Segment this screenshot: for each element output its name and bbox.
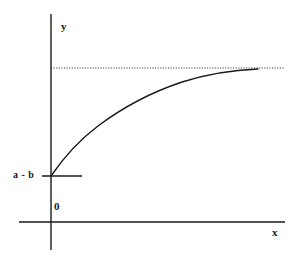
- saturating-curve: [51, 69, 258, 176]
- graph-figure: y x 0 a - b: [0, 0, 298, 268]
- origin-label: 0: [54, 201, 60, 212]
- y-intercept-label: a - b: [13, 170, 34, 180]
- y-axis-label: y: [61, 21, 67, 32]
- plot-canvas: [0, 0, 298, 268]
- x-axis-label: x: [272, 227, 278, 238]
